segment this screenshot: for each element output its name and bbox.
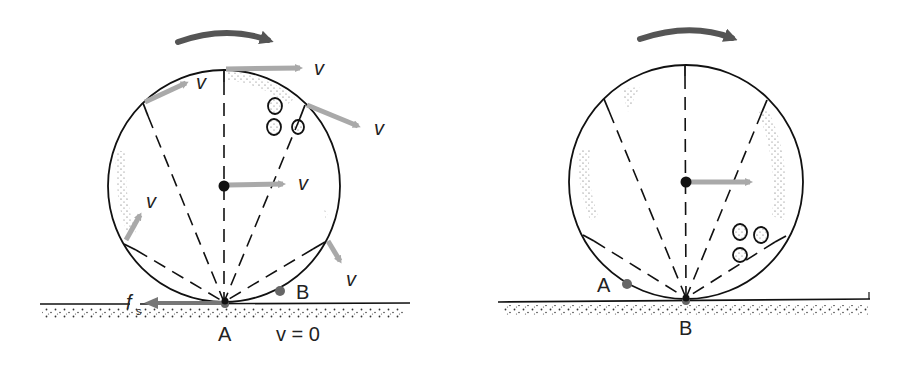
left-panel: v v v v v v f s A B v = 0 [40,33,410,345]
texture-left [116,150,136,235]
label-point-b: B [679,317,692,339]
label-point-a: A [597,274,611,296]
texture-left [578,150,598,220]
label-v-upper-right: v [374,117,385,139]
point-a-marker [622,279,632,289]
rotation-arrow-icon [640,30,732,39]
pebbles-right [733,224,768,262]
label-v-lower-left: v [146,190,157,212]
texture-upper-left [622,86,640,112]
velocity-arrow-top-icon [226,68,300,69]
label-point-a: A [218,323,232,345]
pebbles-left [267,98,304,135]
velocity-arrow-lower-right-icon [328,241,340,261]
velocity-arrow-center-icon [228,184,283,185]
rolling-ball-diagram: v v v v v v f s A B v = 0 [0,0,900,372]
center-point-right [681,177,692,188]
label-v-center: v [298,172,309,194]
rotation-arrow-icon [178,33,268,42]
velocity-arrow-upper-right-icon [307,105,358,126]
label-point-b: B [296,281,309,303]
point-b-marker [275,286,285,296]
velocity-arrows-left [126,68,358,261]
label-v-top: v [314,57,325,79]
label-v-upper-left: v [196,71,207,93]
texture-right [758,110,786,220]
right-panel: B A [498,30,870,339]
label-v-lower-right: v [346,268,357,290]
label-contact-velocity: v = 0 [276,323,320,345]
spokes-left [136,82,313,302]
texture-right [324,208,328,222]
center-point-left [219,181,230,192]
label-friction-subscript: s [136,305,142,317]
